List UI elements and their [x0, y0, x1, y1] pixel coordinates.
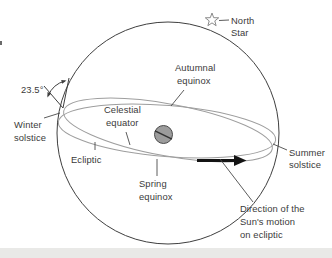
summer-solstice-label-line1: Summer — [289, 147, 325, 158]
autumnal-equinox-label: Autumnal equinox — [175, 62, 215, 86]
sun-direction-arrow-head — [234, 155, 247, 166]
north-star-icon — [205, 13, 218, 26]
earth — [155, 126, 173, 144]
sun-direction-arrow — [197, 155, 247, 166]
celestial-sphere-diagram: 23.5° North Star Autumnal equinox Celest… — [0, 0, 332, 258]
tilt-tick-left — [44, 86, 63, 108]
summer-solstice-label-line2: solstice — [289, 159, 321, 170]
winter-solstice-leader — [44, 113, 60, 118]
sun-direction-leader — [220, 159, 253, 202]
sun-direction-label-line3: on ecliptic — [240, 229, 283, 240]
scan-edge-mark — [0, 41, 2, 45]
tilt-arrowhead-lower — [47, 92, 51, 97]
celestial-equator-label: Celestial equator — [104, 104, 141, 128]
spring-equinox-label-line1: Spring — [139, 178, 167, 189]
celestial-equator-leader — [126, 132, 130, 145]
sun-direction-label-line2: Sun's motion — [240, 216, 295, 227]
north-star-label-line2: Star — [231, 27, 249, 38]
celestial-sphere-figure: 23.5° North Star Autumnal equinox Celest… — [0, 0, 332, 258]
tilt-angle-label: 23.5° — [21, 84, 44, 95]
page-strip — [0, 248, 332, 258]
tilt-tick-right — [63, 78, 69, 108]
autumnal-equinox-leader — [171, 90, 184, 106]
tilt-arrowhead-upper — [61, 80, 66, 84]
ecliptic-label: Ecliptic — [71, 154, 102, 165]
winter-solstice-label: Winter solstice — [14, 119, 46, 143]
spring-equinox-label: Spring equinox — [139, 178, 173, 202]
autumnal-equinox-label-line1: Autumnal — [175, 62, 215, 73]
north-star-leader — [219, 20, 229, 21]
summer-solstice-label: Summer solstice — [289, 147, 325, 170]
north-star-label: North Star — [231, 15, 254, 38]
sun-direction-label: Direction of the Sun's motion on eclipti… — [240, 203, 305, 240]
summer-solstice-leader — [273, 144, 287, 150]
north-star-label-line1: North — [231, 15, 254, 26]
sun-direction-label-line1: Direction of the — [240, 203, 305, 214]
tilt-angle-marker — [44, 78, 69, 108]
winter-solstice-label-line1: Winter — [14, 119, 42, 130]
celestial-equator-label-line1: Celestial — [104, 104, 141, 115]
autumnal-equinox-label-line2: equinox — [177, 75, 211, 86]
winter-solstice-label-line2: solstice — [14, 132, 46, 143]
spring-equinox-label-line2: equinox — [139, 191, 173, 202]
celestial-equator-label-line2: equator — [106, 117, 139, 128]
